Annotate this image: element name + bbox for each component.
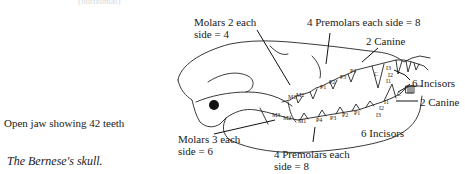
svg-text:C: C [397, 91, 401, 97]
lower-canine-label: 2 Canine [420, 96, 459, 108]
upper-canine-label: 2 Canine [366, 35, 405, 47]
svg-text:I1: I1 [386, 78, 391, 84]
svg-text:M3: M3 [272, 112, 280, 118]
svg-text:I2: I2 [379, 105, 384, 111]
svg-text:P3: P3 [340, 74, 346, 80]
lower-molars-label-line2: side = 6 [178, 145, 213, 157]
incisors-label-right: 6 Incisors [412, 77, 455, 89]
upper-molars-label-line2: side = 4 [194, 28, 229, 40]
upper-premolars-label: 4 Premolars each side = 8 [307, 16, 420, 28]
svg-text:P1: P1 [354, 110, 360, 116]
svg-text:P4: P4 [350, 68, 356, 74]
lower-incisors-label: 6 Incisors [361, 127, 404, 139]
svg-text:P4: P4 [316, 117, 322, 123]
svg-text:I1: I1 [384, 99, 389, 105]
upper-molars-label-line1: Molars 2 each [194, 16, 256, 28]
svg-text:M1: M1 [298, 118, 306, 124]
svg-text:M2: M2 [283, 115, 291, 121]
lower-molars-label-line1: Molars 3 each [178, 133, 240, 145]
svg-text:I3: I3 [376, 112, 381, 118]
svg-text:P1: P1 [320, 84, 326, 90]
svg-text:M2: M2 [296, 92, 304, 98]
svg-text:I3: I3 [386, 65, 391, 71]
lower-premolars-label-line1: 4 Premolars each [274, 148, 350, 160]
svg-text:P2: P2 [342, 112, 348, 118]
svg-text:C: C [374, 71, 378, 77]
svg-text:P3: P3 [330, 115, 336, 121]
lower-premolars-label-line2: side = 8 [274, 160, 309, 172]
svg-text:P2: P2 [329, 79, 335, 85]
